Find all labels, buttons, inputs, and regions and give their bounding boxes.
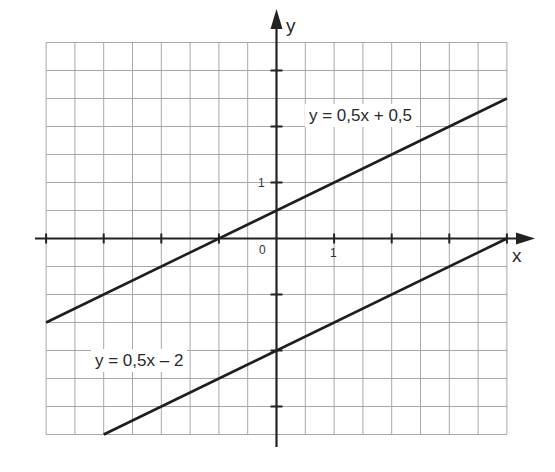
axes <box>35 9 535 447</box>
x-axis-arrow-icon <box>516 233 535 245</box>
coordinate-plot <box>0 0 555 472</box>
y-axis-arrow-icon <box>271 9 283 29</box>
line1-equation-label: y = 0,5x + 0,5 <box>305 104 416 127</box>
x-tick-label-1: 1 <box>330 247 337 259</box>
line2-equation-label: y = 0,5x – 2 <box>91 349 187 372</box>
y-axis-label: y <box>286 16 296 35</box>
y-tick-label-1: 1 <box>258 177 265 189</box>
origin-label: 0 <box>259 244 266 256</box>
x-axis-label: x <box>512 246 522 265</box>
